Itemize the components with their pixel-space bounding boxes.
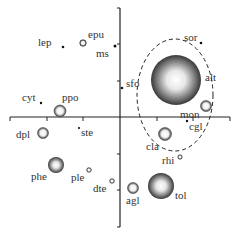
point-dpl [38,128,49,139]
label-agl: agl [126,194,139,206]
label-dte: dte [93,182,107,194]
ordination-bubble-chart: lep epu ms sfo sor alt mon cgl cla rhi t… [0,0,238,235]
label-alt: alt [205,71,216,83]
point-ste [78,127,80,129]
point-ple [87,168,92,173]
label-sfo: sfo [126,77,140,89]
label-epu: epu [88,28,104,40]
label-ms: ms [96,47,109,59]
point-alt [151,55,201,105]
point-lep [62,46,65,49]
point-sor [200,42,203,45]
label-ple: ple [71,171,85,183]
label-mon: mon [180,108,200,120]
label-sor: sor [184,31,198,43]
point-cyt [40,102,42,104]
point-epu [80,40,86,46]
label-cgl: cgl [189,120,202,132]
point-rhi [178,155,182,159]
label-cyt: cyt [22,91,35,103]
point-ppo [54,105,66,117]
point-dte [110,179,115,184]
label-tol: tol [175,189,187,201]
point-mon [201,101,212,112]
point-cgl [186,120,188,122]
point-agl [128,183,139,194]
point-ms [114,45,117,48]
point-cla [159,128,172,141]
label-cla: cla [146,140,159,152]
label-dpl: dpl [16,128,30,140]
label-rhi: rhi [162,154,174,166]
label-ppo: ppo [62,91,79,103]
label-phe: phe [31,170,47,182]
point-phe [48,157,64,173]
point-sfo [121,87,124,90]
label-lep: lep [38,36,52,48]
label-ste: ste [81,126,93,138]
point-tol [148,173,174,199]
